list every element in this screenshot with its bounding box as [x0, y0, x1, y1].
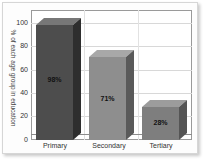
bar-secondary: 71%: [89, 50, 135, 140]
bar-primary-side: [73, 18, 81, 140]
bar-secondary-side: [126, 50, 134, 140]
vgridline-1: [84, 10, 85, 140]
xlabel-tertiary: Tertiary: [136, 142, 186, 149]
bar-tertiary: 28%: [142, 100, 188, 140]
y-axis-label-text: % of each age group in education: [10, 30, 17, 127]
vgridline-2: [138, 10, 139, 140]
bar-tertiary-side: [179, 100, 187, 140]
ytick-0: 0: [8, 136, 28, 144]
bar-tertiary-value: 28%: [142, 119, 179, 126]
bar-secondary-value: 71%: [89, 95, 126, 102]
bar-primary: 98%: [36, 18, 82, 140]
ytick-100: 100: [8, 19, 28, 27]
xlabel-primary: Primary: [30, 142, 80, 149]
bar-primary-value: 98%: [36, 76, 73, 83]
xlabel-secondary: Secondary: [84, 142, 134, 149]
